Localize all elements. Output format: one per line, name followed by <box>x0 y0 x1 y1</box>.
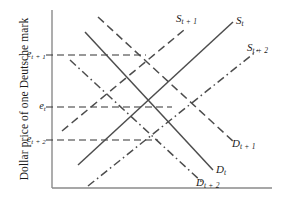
curve-lines <box>62 17 258 186</box>
curve-label-subscript: t <box>224 168 226 177</box>
y-axis-title: Dollar price of one Deutsche mark <box>18 9 30 189</box>
curve-label-subscript: t + 1 <box>182 17 198 26</box>
curve-s-t-2 <box>88 50 258 186</box>
curve-s-t-1 <box>62 30 184 131</box>
curve-label-subscript: t <box>242 19 244 28</box>
curve-label-base: D <box>232 137 240 149</box>
curve-label-base: S <box>176 12 182 24</box>
y-tick-label-subscript: t + 2 <box>31 138 46 146</box>
y-tick-label-e_t: et <box>8 100 46 111</box>
curve-label-d-t-1: Dt + 1 <box>232 137 256 149</box>
curve-label-d-t: Dt <box>216 163 226 175</box>
curve-label-base: D <box>196 176 204 188</box>
curve-label-s-t-2: St + 2 <box>247 41 268 53</box>
curve-label-d-t-2: Dt + 2 <box>196 176 220 188</box>
curve-label-s-t: St <box>236 14 244 26</box>
curve-label-subscript: t + 2 <box>253 46 269 55</box>
curve-label-subscript: t + 2 <box>204 181 220 190</box>
equilibrium-guide-lines <box>46 55 172 140</box>
axis-lines <box>52 10 272 188</box>
curve-s-t <box>78 22 233 165</box>
y-tick-label-e_t_plus_1: et + 1 <box>8 48 46 59</box>
curve-label-subscript: t + 1 <box>240 142 256 151</box>
y-tick-label-subscript: t + 1 <box>31 53 46 61</box>
exchange-rate-supply-demand-figure: Dollar price of one Deutsche mark et + 1… <box>0 0 281 204</box>
curve-label-s-t-1: St + 1 <box>176 12 197 24</box>
y-tick-label-subscript: t <box>44 105 46 113</box>
curve-d-t-2 <box>70 60 203 183</box>
curve-label-base: S <box>236 14 242 26</box>
y-tick-label-e_t_plus_2: et + 2 <box>8 133 46 144</box>
curve-label-base: S <box>247 41 253 53</box>
curve-label-base: D <box>216 163 224 175</box>
